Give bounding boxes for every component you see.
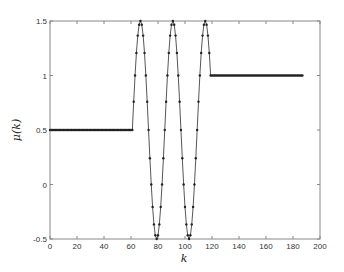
data-point-marker <box>158 223 160 225</box>
data-point-marker <box>155 238 157 240</box>
data-point-marker <box>150 183 152 185</box>
x-tick-label: 100 <box>178 242 192 251</box>
y-axis-label: μ(k) <box>10 119 23 141</box>
data-point-marker <box>139 20 141 22</box>
data-point-marker <box>180 129 182 131</box>
data-point-marker <box>170 24 172 26</box>
data-point-marker <box>166 74 168 76</box>
data-point-marker <box>141 24 143 26</box>
data-point-marker <box>176 52 178 54</box>
data-point-marker <box>178 101 180 103</box>
data-point-marker <box>182 183 184 185</box>
data-point-marker <box>188 238 190 240</box>
data-point-marker <box>189 234 191 236</box>
data-point-marker <box>133 101 135 103</box>
data-point-marker <box>162 157 164 159</box>
data-point-marker <box>174 34 176 36</box>
x-tick-label: 80 <box>154 242 163 251</box>
data-point-marker <box>135 52 137 54</box>
data-point-marker <box>301 74 303 76</box>
data-point-marker <box>197 101 199 103</box>
data-point-marker <box>142 34 144 36</box>
data-point-marker <box>161 183 163 185</box>
x-tick-label: 200 <box>313 242 327 251</box>
data-point-marker <box>208 52 210 54</box>
y-tick-label: 0.5 <box>36 126 48 135</box>
data-point-marker <box>146 101 148 103</box>
data-point-marker <box>153 223 155 225</box>
data-point-marker <box>154 234 156 236</box>
data-point-marker <box>165 101 167 103</box>
data-point-marker <box>204 20 206 22</box>
data-point-marker <box>191 223 193 225</box>
data-point-marker <box>181 157 183 159</box>
data-point-marker <box>138 24 140 26</box>
y-tick-label: 1 <box>43 72 48 81</box>
data-point-marker <box>172 20 174 22</box>
data-point-marker <box>201 34 203 36</box>
x-tick-label: 0 <box>48 242 53 251</box>
x-tick-label: 120 <box>205 242 219 251</box>
data-point-marker <box>193 183 195 185</box>
data-point-marker <box>169 34 171 36</box>
data-point-marker <box>143 52 145 54</box>
data-point-marker <box>207 34 209 36</box>
data-point-marker <box>134 74 136 76</box>
data-point-marker <box>195 157 197 159</box>
data-point-marker <box>192 206 194 208</box>
data-point-marker <box>173 24 175 26</box>
data-point-marker <box>200 52 202 54</box>
data-point-marker <box>151 206 153 208</box>
data-point-marker <box>160 206 162 208</box>
data-point-marker <box>187 234 189 236</box>
data-point-marker <box>185 223 187 225</box>
data-point-marker <box>203 24 205 26</box>
x-tick-label: 140 <box>232 242 246 251</box>
y-tick-label: 0 <box>43 181 48 190</box>
data-point-marker <box>145 74 147 76</box>
x-axis-label: k <box>181 252 188 265</box>
y-tick-label: -0.5 <box>33 235 47 244</box>
x-tick-label: 60 <box>127 242 136 251</box>
data-point-marker <box>164 129 166 131</box>
data-point-marker <box>196 129 198 131</box>
data-point-marker <box>137 34 139 36</box>
data-point-marker <box>157 234 159 236</box>
x-tick-label: 20 <box>73 242 82 251</box>
x-tick-label: 160 <box>259 242 273 251</box>
data-point-marker <box>131 129 133 131</box>
data-point-marker <box>199 74 201 76</box>
line-chart: 020406080100120140160180200 -0.500.511.5… <box>0 0 344 272</box>
data-point-marker <box>147 129 149 131</box>
data-point-marker <box>177 74 179 76</box>
data-point-marker <box>168 52 170 54</box>
x-tick-label: 180 <box>286 242 300 251</box>
data-point-marker <box>149 157 151 159</box>
data-point-marker <box>205 24 207 26</box>
x-tick-label: 40 <box>100 242 109 251</box>
data-point-marker <box>184 206 186 208</box>
y-tick-label: 1.5 <box>36 17 48 26</box>
